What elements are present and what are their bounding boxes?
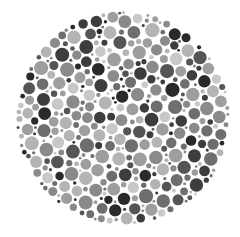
plate-dot [157,77,160,80]
plate-dot [72,141,75,144]
dot-plate [0,0,240,237]
plate-dot [97,203,108,214]
plate-dot [142,82,148,88]
plate-dot [165,83,179,97]
plate-dot [119,168,132,181]
plate-dot [70,204,77,211]
plate-dot [94,79,107,92]
plate-dot [119,30,124,35]
plate-dot [96,93,100,97]
plate-dot [109,136,113,140]
plate-dot [130,72,133,75]
plate-dot [132,195,138,201]
plate-dot [79,125,90,136]
plate-dot [59,181,70,192]
plate-dot [50,57,53,60]
plate-dot [199,166,210,177]
plate-dot [76,135,81,140]
plate-dot [54,152,57,155]
plate-dot [136,61,141,66]
plate-dot [118,15,131,28]
plate-dot [107,48,112,53]
plate-dot [37,55,41,59]
plate-dot [139,139,150,150]
plate-dot [73,181,76,184]
plate-dot [66,145,80,159]
plate-dot [157,194,170,207]
plate-dot [17,126,20,129]
plate-dot [67,31,80,44]
plate-dot [145,113,159,127]
plate-dot [52,98,64,110]
plate-dot [161,146,167,152]
plate-dot [95,150,109,164]
plate-dot [31,117,38,124]
plate-dot [129,203,140,214]
plate-dot [34,61,48,75]
dot-group [17,11,230,224]
plate-dot [25,96,34,105]
plate-dot [133,221,136,224]
plate-dot [60,117,72,129]
plate-dot [49,61,58,70]
plate-dot [219,84,225,90]
plate-dot [145,23,159,37]
plate-dot [26,154,31,159]
plate-dot [26,72,34,80]
dot-plate-canvas [0,0,240,237]
plate-dot [178,40,181,43]
plate-dot [153,200,156,203]
plate-dot [25,136,39,150]
plate-dot [169,149,183,163]
plate-dot [93,129,105,141]
plate-dot [66,160,72,166]
plate-dot [172,117,175,120]
plate-dot [198,140,206,148]
plate-dot [175,66,186,77]
plate-dot [181,44,194,57]
plate-dot [81,101,85,105]
plate-dot [169,28,181,40]
plate-dot [22,150,27,155]
plate-dot [22,108,33,119]
plate-dot [100,179,106,185]
plate-dot [202,63,214,75]
plate-dot [198,162,202,166]
plate-dot [91,53,94,56]
plate-dot [160,55,168,63]
plate-dot [50,38,60,48]
plate-dot [121,147,124,150]
plate-dot [103,187,106,190]
plate-dot [106,171,117,182]
plate-dot [145,19,149,23]
plate-dot [146,163,151,168]
plate-dot [185,126,188,129]
plate-dot [55,48,69,62]
plate-dot [69,59,72,62]
plate-dot [122,70,129,77]
plate-dot [79,195,93,209]
plate-dot [162,182,172,192]
plate-dot [101,40,107,46]
plate-dot [80,138,94,152]
plate-dot [150,84,161,95]
plate-dot [153,216,157,220]
plate-dot [60,113,63,116]
plate-dot [52,136,64,148]
plate-dot [80,159,91,170]
plate-dot [85,102,94,111]
plate-dot [94,112,106,124]
plate-dot [102,13,106,17]
plate-dot [147,75,155,83]
plate-dot [151,137,162,148]
plate-dot [215,95,227,107]
plate-dot [158,21,161,24]
plate-dot [33,132,36,135]
plate-dot [42,172,53,183]
plate-dot [125,139,138,152]
plate-dot [110,108,113,111]
plate-dot [224,91,227,94]
plate-dot [36,76,39,79]
plate-dot [170,41,178,49]
plate-dot [74,198,77,201]
